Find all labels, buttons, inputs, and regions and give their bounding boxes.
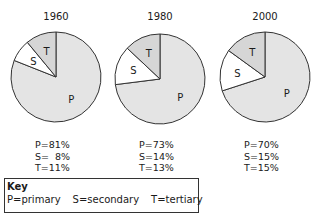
stat-S: S= 8% <box>35 151 70 163</box>
stat-S: S=15% <box>244 151 279 163</box>
stat-T: T=15% <box>244 162 279 174</box>
stat-S: S=14% <box>139 151 174 163</box>
pie-chart-1960: 1960PSTP=81%S= 8%T=11% <box>1 0 111 170</box>
legend-title: Key <box>7 181 196 193</box>
pie-label-P: P <box>284 88 290 99</box>
pie-label-T: T <box>42 46 50 57</box>
pie-svg: PST <box>105 0 215 130</box>
legend-tertiary: T=tertiary <box>151 194 203 205</box>
pie-label-P: P <box>177 92 183 103</box>
pie-stats: P=81%S= 8%T=11% <box>35 139 70 174</box>
pie-label-T: T <box>248 47 256 58</box>
pie-label-T: T <box>145 48 153 59</box>
legend-key: Key P=primaryS=secondaryT=tertiary <box>4 178 199 213</box>
pie-label-P: P <box>68 94 74 105</box>
pie-stats: P=70%S=15%T=15% <box>244 139 279 174</box>
pie-stats: P=73%S=14%T=13% <box>139 139 174 174</box>
pie-label-S: S <box>30 56 36 67</box>
pie-label-S: S <box>234 68 240 79</box>
pie-svg: PST <box>1 0 111 130</box>
legend-secondary: S=secondary <box>73 194 140 205</box>
stat-T: T=13% <box>139 162 174 174</box>
pie-chart-2000: 2000PSTP=70%S=15%T=15% <box>210 0 320 170</box>
stat-P: P=81% <box>35 139 70 151</box>
legend-primary: P=primary <box>7 194 61 205</box>
stat-P: P=73% <box>139 139 174 151</box>
legend-entries: P=primaryS=secondaryT=tertiary <box>7 193 196 207</box>
pie-label-S: S <box>130 65 136 76</box>
stat-P: P=70% <box>244 139 279 151</box>
pie-chart-1980: 1980PSTP=73%S=14%T=13% <box>105 0 215 170</box>
pie-svg: PST <box>210 0 320 130</box>
stat-T: T=11% <box>35 162 70 174</box>
